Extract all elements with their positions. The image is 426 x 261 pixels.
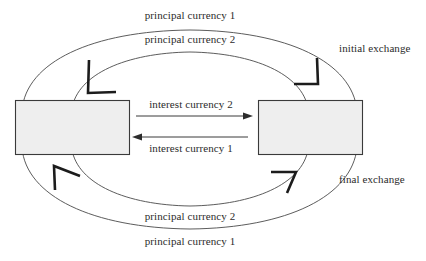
arrowhead-top-right-icon [294, 58, 318, 84]
arrowhead-bottom-right-icon [271, 172, 296, 193]
label-top-inner-principal-currency-2: principal currency 2 [145, 34, 236, 45]
interest-currency-1-arrowhead-icon [132, 133, 142, 140]
label-initial-exchange: initial exchange [339, 43, 411, 54]
party-right-box[interactable] [259, 101, 363, 155]
interest-currency-2-arrowhead-icon [243, 112, 253, 119]
label-interest-currency-2: interest currency 2 [149, 99, 233, 110]
arrowhead-top-left-icon [88, 60, 116, 93]
arrowhead-bottom-left-icon [54, 166, 80, 190]
party-left-box[interactable] [16, 101, 130, 155]
label-bottom-inner-principal-currency-2: principal currency 2 [145, 211, 236, 222]
label-bottom-outer-principal-currency-1: principal currency 1 [145, 236, 236, 247]
curve-principal-currency-2-bottom [72, 150, 308, 206]
diagram-canvas: principal currency 1 principal currency … [0, 0, 426, 261]
label-interest-currency-1: interest currency 1 [149, 143, 233, 154]
label-top-outer-principal-currency-1: principal currency 1 [145, 10, 236, 21]
label-final-exchange: final exchange [339, 174, 405, 185]
